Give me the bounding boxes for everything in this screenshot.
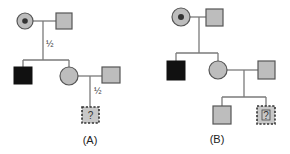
panel-caption-b: (B) bbox=[210, 133, 225, 145]
female-symbol bbox=[60, 67, 78, 85]
probability-label: ½ bbox=[94, 86, 102, 96]
unknown-label: ? bbox=[263, 110, 269, 121]
female-symbol bbox=[209, 61, 227, 79]
affected-male-symbol bbox=[14, 67, 32, 84]
male-symbol bbox=[102, 67, 120, 83]
male-symbol bbox=[206, 9, 223, 26]
carrier-dot bbox=[178, 14, 184, 20]
male-symbol bbox=[213, 106, 231, 124]
pedigree-panel-a: ? ½ ½ (A) bbox=[14, 13, 120, 146]
carrier-dot bbox=[22, 18, 28, 24]
pedigree-diagram: ? ½ ½ (A) ? (B) bbox=[0, 0, 290, 154]
affected-male-symbol bbox=[167, 61, 185, 80]
pedigree-panel-b: ? (B) bbox=[167, 8, 275, 145]
male-symbol bbox=[56, 13, 72, 29]
panel-caption-a: (A) bbox=[83, 134, 98, 146]
probability-label: ½ bbox=[46, 39, 54, 49]
unknown-label: ? bbox=[88, 110, 94, 121]
male-symbol bbox=[258, 61, 275, 79]
